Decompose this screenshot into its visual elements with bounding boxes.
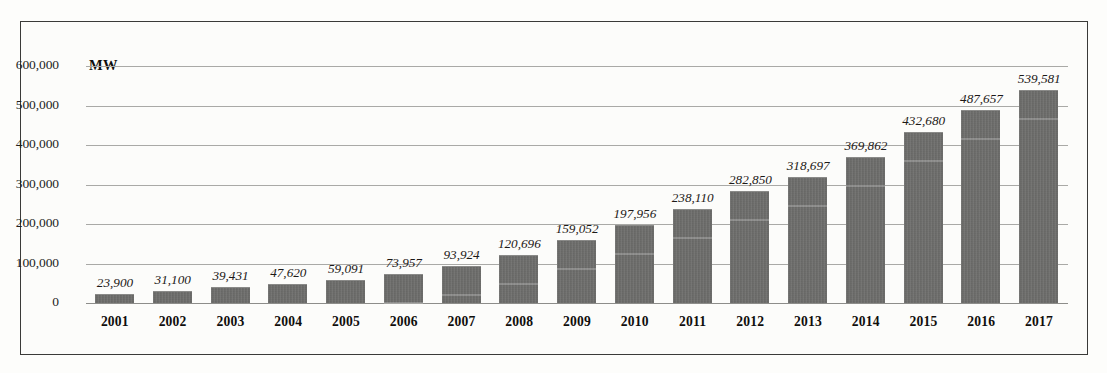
y-axis-tick-label: 200,000 [0, 215, 59, 231]
bar-slot: 73,957 [375, 66, 433, 303]
x-axis-tick-label: 2005 [317, 314, 375, 330]
bar[interactable] [788, 177, 827, 303]
bar[interactable] [961, 110, 1000, 303]
x-axis-tick-label: 2010 [606, 314, 664, 330]
bar-slot: 282,850 [721, 66, 779, 303]
bar[interactable] [615, 225, 654, 303]
x-axis-tick-label: 2014 [837, 314, 895, 330]
plot-area: 0100,000200,000300,000400,000500,000600,… [86, 66, 1068, 303]
bar-slot: 318,697 [779, 66, 837, 303]
bar[interactable] [846, 157, 885, 303]
chart-figure: MW 0100,000200,000300,000400,000500,0006… [0, 0, 1107, 373]
y-axis-tick-label: 100,000 [0, 255, 59, 271]
bar[interactable] [904, 132, 943, 303]
x-axis-tick-label: 2004 [259, 314, 317, 330]
bar[interactable] [673, 209, 712, 303]
bar[interactable] [730, 191, 769, 303]
bar[interactable] [442, 266, 481, 303]
y-axis-tick-label: 300,000 [0, 176, 59, 192]
bar[interactable] [326, 280, 365, 303]
bar-slot: 197,956 [606, 66, 664, 303]
bar-slot: 539,581 [1010, 66, 1068, 303]
bar-slot: 487,657 [952, 66, 1010, 303]
x-axis-tick-label: 2008 [490, 314, 548, 330]
bar[interactable] [268, 284, 307, 303]
x-axis-tick-label: 2013 [779, 314, 837, 330]
bar-slot: 93,924 [433, 66, 491, 303]
bar-value-label: 539,581 [996, 71, 1082, 87]
y-axis-tick-label: 400,000 [0, 136, 59, 152]
x-axis-tick-label: 2012 [721, 314, 779, 330]
x-axis-tick-label: 2015 [895, 314, 953, 330]
bar[interactable] [499, 255, 538, 303]
x-axis-tick-label: 2006 [375, 314, 433, 330]
x-axis-tick-label: 2011 [664, 314, 722, 330]
x-axis-tick-label: 2003 [202, 314, 260, 330]
x-axis-tick-label: 2007 [433, 314, 491, 330]
bar[interactable] [557, 240, 596, 303]
bar-slot: 31,100 [144, 66, 202, 303]
bar-slot: 159,052 [548, 66, 606, 303]
bar[interactable] [1019, 90, 1058, 303]
x-axis-tick-label: 2009 [548, 314, 606, 330]
bar-slot: 23,900 [86, 66, 144, 303]
x-axis-tick-label: 2016 [952, 314, 1010, 330]
bar[interactable] [95, 294, 134, 303]
y-axis-tick-label: 600,000 [0, 57, 59, 73]
y-axis-tick-label: 500,000 [0, 97, 59, 113]
bar-slot: 120,696 [490, 66, 548, 303]
y-axis-tick-label: 0 [0, 294, 59, 310]
x-axis-tick-label: 2017 [1010, 314, 1068, 330]
bar[interactable] [153, 291, 192, 303]
bar-slot: 369,862 [837, 66, 895, 303]
x-axis-tick-label: 2001 [86, 314, 144, 330]
x-axis-tick-label: 2002 [144, 314, 202, 330]
bar[interactable] [211, 287, 250, 303]
bar[interactable] [384, 274, 423, 303]
x-axis-labels: 2001200220032004200520062007200820092010… [86, 303, 1068, 343]
